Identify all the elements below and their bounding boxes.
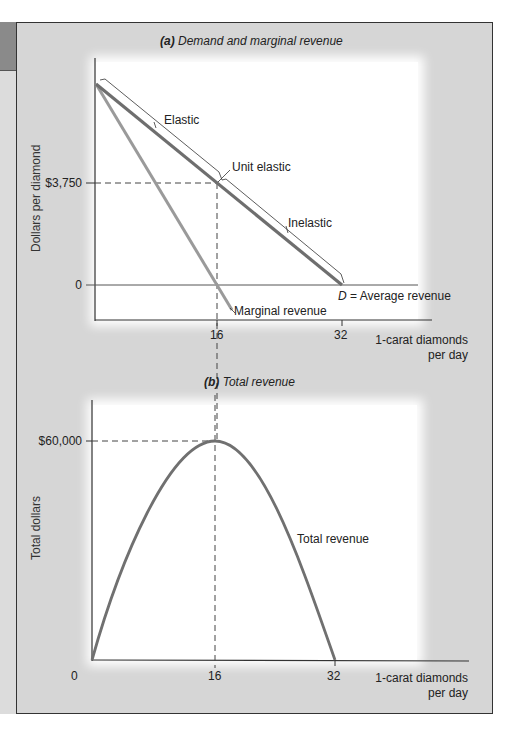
- panel-b-xlabel-line2: per day: [360, 686, 468, 700]
- panel-a-title-prefix: (a): [160, 34, 175, 48]
- panel-b-ytick-60000: $60,000: [20, 434, 82, 448]
- panel-a-xtick-16: 16: [210, 328, 223, 342]
- label-unit-elastic: Unit elastic: [232, 160, 291, 174]
- panel-a-ytick-3750: $3,750: [30, 176, 82, 190]
- label-marginal-revenue: Marginal revenue: [234, 304, 327, 318]
- label-demand: D = Average revenue: [338, 289, 451, 303]
- panel-b-xtick-16: 16: [208, 669, 221, 683]
- label-demand-d: D: [338, 289, 347, 303]
- panel-b-xlabel-line1: 1-carat diamonds: [360, 671, 468, 685]
- panel-b-xtick-0: 0: [71, 669, 78, 683]
- panel-a-xlabel-line2: per day: [360, 348, 468, 362]
- panel-a-ylabel: Dollars per diamond: [29, 145, 43, 252]
- label-total-revenue: Total revenue: [297, 532, 369, 546]
- panel-b-title-prefix: (b): [204, 375, 219, 389]
- panel-a-title: (a) Demand and marginal revenue: [160, 34, 343, 48]
- panel-a-ytick-0: 0: [30, 278, 82, 292]
- label-inelastic: Inelastic: [288, 216, 332, 230]
- label-demand-rest: = Average revenue: [347, 289, 451, 303]
- panel-b-title-text: Total revenue: [219, 375, 295, 389]
- label-elastic: Elastic: [164, 113, 199, 127]
- panel-a-xtick-32: 32: [334, 328, 347, 342]
- panel-a-title-text: Demand and marginal revenue: [175, 34, 343, 48]
- panel-b-title: (b) Total revenue: [204, 375, 295, 389]
- chart-graphics: [0, 0, 508, 730]
- panel-a-xlabel-line1: 1-carat diamonds: [360, 333, 468, 347]
- panel-b-xtick-32: 32: [327, 669, 340, 683]
- panel-b-ylabel: Total dollars: [29, 496, 43, 560]
